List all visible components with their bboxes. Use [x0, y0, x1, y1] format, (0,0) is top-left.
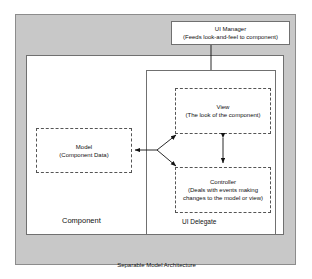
ui-manager-subtitle: (Feeds look-and-feel to component)	[183, 33, 278, 41]
architecture-label: Separable Model Architecture	[16, 262, 297, 268]
ui-manager-title: UI Manager	[215, 25, 246, 33]
controller-title: Controller	[210, 178, 236, 186]
view-box: View (The look of the component)	[175, 88, 271, 134]
controller-subtitle-line1: (Deals with events making	[188, 186, 258, 194]
model-title: Model	[76, 143, 92, 151]
view-subtitle: (The look of the component)	[185, 111, 260, 119]
view-title: View	[217, 103, 230, 111]
controller-subtitle-line2: changes to the model or view)	[183, 194, 263, 202]
component-label: Component	[62, 216, 101, 225]
model-subtitle: (Component Data)	[59, 151, 108, 159]
controller-box: Controller (Deals with events making cha…	[175, 167, 271, 213]
diagram-canvas: Separable Model Architecture Component U…	[0, 0, 312, 279]
ui-delegate-label: UI Delegate	[182, 218, 216, 225]
model-box: Model (Component Data)	[36, 128, 132, 173]
ui-manager-box: UI Manager (Feeds look-and-feel to compo…	[171, 21, 290, 45]
